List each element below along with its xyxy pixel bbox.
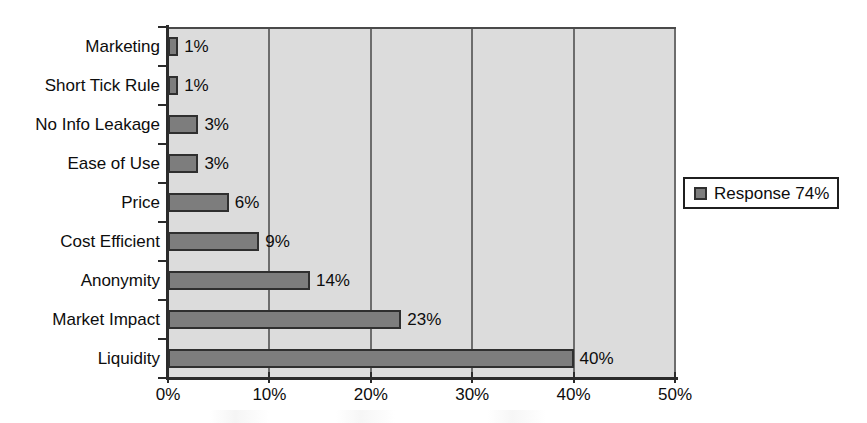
x-axis-tick-label: 30%	[455, 386, 489, 403]
category-label: Liquidity	[98, 350, 160, 367]
legend-label: Response 74%	[714, 185, 829, 202]
y-axis-tick	[158, 299, 168, 301]
gridline	[674, 29, 676, 378]
category-label: Marketing	[85, 38, 160, 55]
bar	[168, 37, 178, 56]
y-axis-tick	[158, 104, 168, 106]
bar-value-label: 3%	[204, 116, 229, 133]
x-axis-tick-label: 20%	[354, 386, 388, 403]
x-axis-tick	[268, 372, 270, 383]
bar-chart-figure: MarketingShort Tick RuleNo Info LeakageE…	[0, 0, 867, 423]
x-axis-tick	[674, 372, 676, 383]
bar	[168, 232, 259, 251]
bar	[168, 193, 229, 212]
y-axis-tick	[158, 26, 168, 28]
bar-value-label: 14%	[316, 272, 350, 289]
category-label: Cost Efficient	[60, 233, 160, 250]
category-label: Anonymity	[81, 272, 160, 289]
bar-value-label: 1%	[184, 38, 209, 55]
category-label: Price	[121, 194, 160, 211]
y-axis-tick	[158, 338, 168, 340]
x-axis-tick	[370, 372, 372, 383]
gridline	[573, 29, 575, 378]
category-label: Market Impact	[52, 311, 160, 328]
y-axis-tick	[158, 221, 168, 223]
x-axis-line	[166, 377, 678, 380]
category-label: Short Tick Rule	[45, 77, 160, 94]
x-axis-tick-label: 40%	[557, 386, 591, 403]
y-axis-tick	[158, 65, 168, 67]
x-axis-tick	[573, 372, 575, 383]
y-axis-tick	[158, 143, 168, 145]
bar	[168, 310, 401, 329]
legend-swatch-icon	[694, 187, 707, 200]
gridline	[471, 29, 473, 378]
category-label: Ease of Use	[67, 155, 160, 172]
bar	[168, 115, 198, 134]
x-axis-tick-label: 50%	[658, 386, 692, 403]
bar	[168, 349, 574, 368]
bar-value-label: 3%	[204, 155, 229, 172]
x-axis-tick	[471, 372, 473, 383]
bar	[168, 76, 178, 95]
x-axis-tick-label: 0%	[156, 386, 181, 403]
scan-edge-artifact	[210, 410, 630, 423]
y-axis-tick	[158, 260, 168, 262]
bar	[168, 271, 310, 290]
bar-value-label: 1%	[184, 77, 209, 94]
x-axis-tick-label: 10%	[252, 386, 286, 403]
category-label: No Info Leakage	[35, 116, 160, 133]
bar-value-label: 23%	[407, 311, 441, 328]
bar-value-label: 40%	[580, 350, 614, 367]
y-axis-tick	[158, 182, 168, 184]
chart-legend: Response 74%	[683, 177, 839, 209]
bar-value-label: 6%	[235, 194, 260, 211]
y-axis-tick	[158, 377, 168, 379]
bar-value-label: 9%	[265, 233, 290, 250]
bar	[168, 154, 198, 173]
